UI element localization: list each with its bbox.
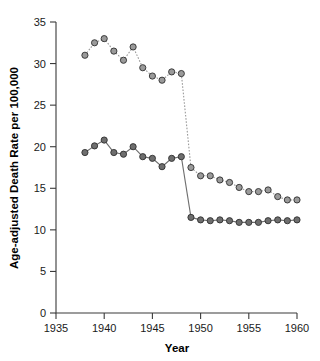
- series-line: [191, 168, 297, 200]
- data-point-marker: [198, 173, 204, 179]
- data-point-marker: [188, 214, 194, 220]
- data-point-marker: [236, 219, 242, 225]
- data-point-marker: [111, 48, 117, 54]
- data-point-marker: [159, 164, 165, 170]
- y-tick-label: 35: [34, 16, 46, 28]
- x-tick-label: 1950: [188, 322, 212, 334]
- x-tick-label: 1955: [237, 322, 261, 334]
- series-line: [181, 74, 191, 168]
- data-point-marker: [149, 73, 155, 79]
- data-point-marker: [82, 149, 88, 155]
- data-point-marker: [294, 217, 300, 223]
- y-tick-label: 10: [34, 224, 46, 236]
- data-point-marker: [82, 52, 88, 58]
- data-point-marker: [111, 149, 117, 155]
- y-axis-ticks: [50, 22, 56, 313]
- data-point-marker: [207, 218, 213, 224]
- line-chart-plot: 05101520253035 193519401945195019551960 …: [0, 0, 320, 361]
- data-point-marker: [265, 218, 271, 224]
- data-point-marker: [275, 217, 281, 223]
- x-axis-ticks: [56, 313, 297, 319]
- data-point-marker: [246, 219, 252, 225]
- data-point-marker: [217, 217, 223, 223]
- y-tick-label: 30: [34, 58, 46, 70]
- data-point-marker: [265, 187, 271, 193]
- data-point-marker: [91, 143, 97, 149]
- x-tick-label: 1935: [44, 322, 68, 334]
- y-tick-label: 20: [34, 141, 46, 153]
- data-point-marker: [130, 144, 136, 150]
- chart-container: 05101520253035 193519401945195019551960 …: [0, 0, 320, 361]
- data-point-marker: [149, 155, 155, 161]
- x-axis-title: Year: [165, 342, 190, 354]
- data-point-marker: [91, 40, 97, 46]
- data-point-marker: [120, 151, 126, 157]
- data-series-layer: [82, 36, 300, 226]
- data-point-marker: [226, 179, 232, 185]
- data-point-marker: [120, 57, 126, 63]
- data-point-marker: [140, 65, 146, 71]
- y-axis-tick-labels: 05101520253035: [34, 16, 46, 319]
- data-point-marker: [284, 197, 290, 203]
- y-axis-title: Age-adjusted Death Rate per 100,000: [8, 67, 20, 269]
- chart-axes: [56, 22, 297, 313]
- x-axis-tick-labels: 193519401945195019551960: [44, 322, 309, 334]
- x-tick-label: 1940: [92, 322, 116, 334]
- y-tick-label: 15: [34, 182, 46, 194]
- y-tick-label: 0: [40, 307, 46, 319]
- data-point-marker: [275, 194, 281, 200]
- data-point-marker: [159, 77, 165, 83]
- data-point-marker: [178, 70, 184, 76]
- data-point-marker: [246, 189, 252, 195]
- data-point-marker: [101, 137, 107, 143]
- data-point-marker: [226, 218, 232, 224]
- data-point-marker: [178, 154, 184, 160]
- data-point-marker: [236, 184, 242, 190]
- series-lower-series: [82, 137, 300, 226]
- data-point-marker: [101, 36, 107, 42]
- y-tick-label: 5: [40, 265, 46, 277]
- data-point-marker: [130, 44, 136, 50]
- data-point-marker: [255, 219, 261, 225]
- series-upper-series: [82, 36, 300, 203]
- data-point-marker: [188, 164, 194, 170]
- data-point-marker: [207, 173, 213, 179]
- y-tick-label: 25: [34, 99, 46, 111]
- data-point-marker: [140, 154, 146, 160]
- x-tick-label: 1960: [285, 322, 309, 334]
- data-point-marker: [169, 155, 175, 161]
- data-point-marker: [169, 69, 175, 75]
- x-tick-label: 1945: [140, 322, 164, 334]
- data-point-marker: [294, 197, 300, 203]
- data-point-marker: [217, 177, 223, 183]
- data-point-marker: [255, 189, 261, 195]
- data-point-marker: [198, 217, 204, 223]
- data-point-marker: [284, 218, 290, 224]
